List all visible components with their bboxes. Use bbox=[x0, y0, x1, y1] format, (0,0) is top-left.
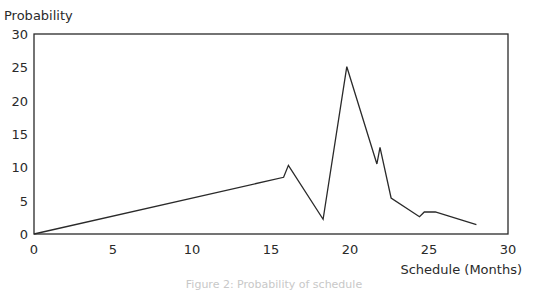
x-tick-label: 15 bbox=[263, 242, 280, 257]
plot-frame bbox=[34, 34, 508, 234]
data-series bbox=[34, 67, 476, 234]
x-tick-label: 0 bbox=[30, 242, 38, 257]
x-tick-label: 30 bbox=[500, 242, 517, 257]
y-tick-label: 30 bbox=[11, 27, 28, 42]
x-tick-label: 20 bbox=[342, 242, 359, 257]
y-tick-label: 0 bbox=[20, 227, 28, 242]
x-tick-label: 5 bbox=[109, 242, 117, 257]
x-tick-label: 25 bbox=[421, 242, 438, 257]
y-tick-label: 10 bbox=[11, 160, 28, 175]
y-tick-label: 20 bbox=[11, 94, 28, 109]
y-tick-label: 15 bbox=[11, 127, 28, 142]
series-line bbox=[34, 67, 476, 234]
plot-border bbox=[34, 34, 508, 234]
y-tick-label: 5 bbox=[20, 194, 28, 209]
x-tick-label: 10 bbox=[184, 242, 201, 257]
y-tick-label: 25 bbox=[11, 60, 28, 75]
